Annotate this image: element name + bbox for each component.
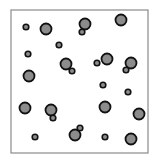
small-particle-icon (94, 60, 100, 66)
large-particle-icon (100, 102, 111, 113)
small-particle-icon (32, 134, 38, 140)
large-particle-icon (24, 71, 35, 82)
large-particle-icon (80, 19, 91, 30)
large-particle-icon (20, 103, 31, 114)
small-particle-icon (69, 68, 75, 74)
large-particle-icon (102, 54, 113, 65)
large-particle-icon (116, 15, 127, 26)
small-particle-icon (102, 134, 108, 140)
small-particle-icon (77, 125, 83, 131)
small-particle-icon (25, 51, 31, 57)
large-particle-icon (61, 59, 72, 70)
particles-group (20, 15, 145, 145)
small-particle-icon (100, 82, 106, 88)
large-particle-icon (126, 134, 137, 145)
small-particle-icon (50, 115, 56, 121)
small-particle-icon (23, 24, 29, 30)
large-particle-icon (41, 24, 52, 35)
particle-diagram (0, 0, 155, 160)
small-particle-icon (56, 42, 62, 48)
large-particle-icon (46, 105, 57, 116)
large-particle-icon (134, 109, 145, 120)
small-particle-icon (123, 67, 129, 73)
small-particle-icon (125, 89, 131, 95)
small-particle-icon (79, 29, 85, 35)
